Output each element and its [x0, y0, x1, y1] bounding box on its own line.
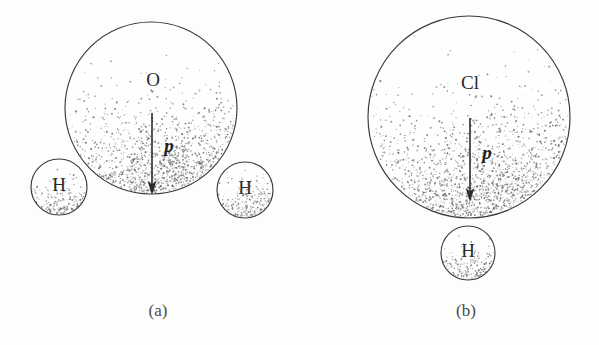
- atom-hydrogen-b: H: [441, 226, 495, 280]
- atom-hydrogen-right: H: [217, 162, 273, 218]
- oxygen-circle: [65, 22, 237, 194]
- hydrogen-b-label: H: [461, 240, 475, 261]
- panel-a: O H H p: [31, 22, 273, 320]
- panel-b-caption: (b): [456, 301, 476, 320]
- hydrogen-left-label: H: [52, 174, 66, 195]
- atom-chlorine: Cl: [368, 16, 570, 218]
- atom-hydrogen-left: H: [31, 159, 87, 215]
- panel-b: Cl H p (b): [368, 16, 570, 320]
- chlorine-label: Cl: [461, 72, 479, 93]
- oxygen-label: O: [146, 69, 160, 90]
- dipole-vector-label-b: p: [480, 142, 492, 163]
- figure-container: O H H p: [0, 0, 599, 345]
- panel-a-caption: (a): [149, 301, 168, 320]
- hydrogen-right-label: H: [238, 177, 252, 198]
- dipole-moment-figure: O H H p: [0, 0, 599, 345]
- dipole-vector-label-a: p: [162, 135, 174, 156]
- atom-oxygen: O: [65, 22, 237, 194]
